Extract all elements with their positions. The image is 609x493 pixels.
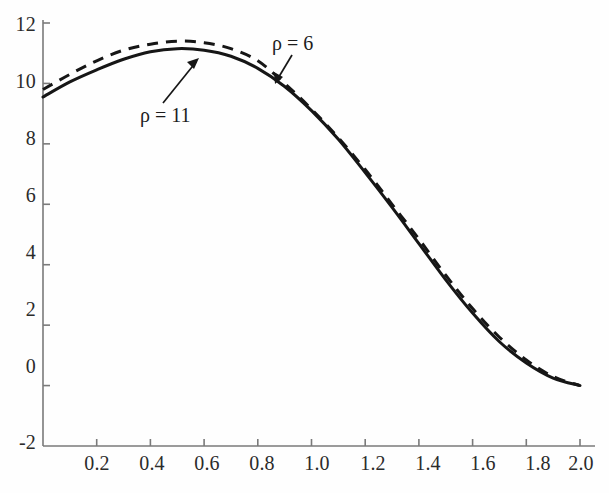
series-line-rho-6 [43,41,580,386]
x-tick-label-1-2: 1.2 [346,452,400,475]
annotation-rho-11: ρ = 11 [140,104,191,127]
y-tick-label-8: 8 [4,127,36,150]
annotation-rho-6: ρ = 6 [272,32,313,55]
x-tick-label-0-6: 0.6 [180,452,234,475]
x-tick-label-1-6: 1.6 [456,452,510,475]
x-tick-label-0-8: 0.8 [235,452,289,475]
x-tick-label-1-4: 1.4 [401,452,455,475]
chart-figure: 12 10 8 6 4 2 0 -2 0.2 0.4 0.6 0.8 1.0 1… [0,0,609,493]
x-tick-marks [97,439,580,446]
data-series-group [43,41,580,386]
series-line-rho-11 [43,49,580,386]
x-tick-label-2-0: 2.0 [554,452,608,475]
axes-group [43,20,595,446]
plot-canvas [0,0,609,493]
y-tick-label-2: 2 [4,298,36,321]
x-tick-label-1-0: 1.0 [290,452,344,475]
y-tick-label-minus2: -2 [0,431,36,454]
y-tick-marks [43,23,50,386]
y-tick-label-10: 10 [4,70,36,93]
arrow-rho-11 [163,58,199,103]
x-tick-label-0-4: 0.4 [125,452,179,475]
y-tick-label-4: 4 [4,241,36,264]
arrow-rho-6 [274,55,292,84]
x-tick-label-0-2: 0.2 [70,452,124,475]
y-tick-label-12: 12 [4,13,36,36]
y-tick-label-6: 6 [4,184,36,207]
y-tick-label-0: 0 [4,355,36,378]
